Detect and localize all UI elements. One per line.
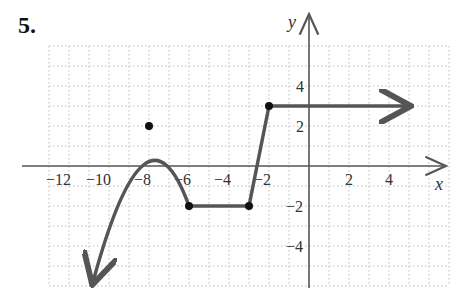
function-graph: x y −12 −10 −8 −6 −4 −2 2 4 4 2 −2 −4: [0, 0, 468, 297]
function-curve: [93, 106, 408, 282]
y-tick-label: 2: [296, 118, 304, 135]
y-tick-label: −2: [286, 198, 303, 215]
x-tick-label: 4: [385, 171, 393, 188]
y-tick-label: −4: [286, 238, 303, 255]
x-tick-label: −12: [46, 171, 71, 188]
y-tick-label: 4: [296, 78, 304, 95]
x-axis-label: x: [434, 174, 443, 194]
x-tick-label: 2: [345, 171, 353, 188]
endpoint: [185, 202, 193, 210]
vertex-point: [145, 122, 153, 130]
x-tick-label: −4: [214, 171, 231, 188]
y-axis-label: y: [286, 12, 296, 32]
endpoint: [245, 202, 253, 210]
endpoint: [265, 102, 273, 110]
x-tick-label: −10: [86, 171, 111, 188]
